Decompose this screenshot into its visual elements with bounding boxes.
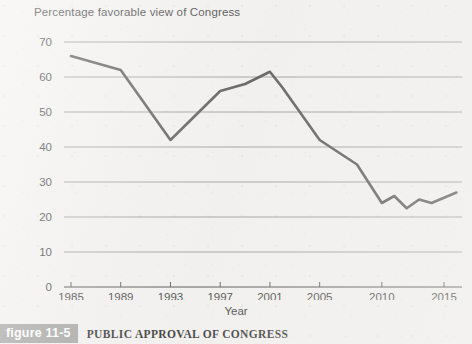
data-line-congress-approval bbox=[71, 56, 456, 208]
y-tick-label: 30 bbox=[39, 176, 52, 188]
figure-caption-bar: figure 11-5 PUBLIC APPROVAL OF CONGRESS bbox=[0, 323, 472, 344]
y-tick-label: 50 bbox=[39, 106, 52, 118]
figure-container: Percentage favorable view of Congress 01… bbox=[0, 0, 472, 344]
x-axis-tick-labels: 19851989199319972001200520102015 bbox=[58, 291, 457, 300]
line-chart-plot: 010203040506070 198519891993199720012005… bbox=[0, 0, 472, 300]
y-tick-label: 10 bbox=[39, 246, 52, 258]
x-tick-label: 2010 bbox=[369, 291, 395, 300]
y-tick-label: 0 bbox=[46, 281, 52, 293]
y-tick-label: 70 bbox=[39, 36, 52, 48]
y-tick-label: 20 bbox=[39, 211, 52, 223]
x-tick-label: 1993 bbox=[158, 291, 184, 300]
x-axis-title: Year bbox=[0, 305, 472, 317]
x-tick-label: 2015 bbox=[431, 291, 457, 300]
x-axis-line bbox=[64, 282, 462, 287]
figure-number-badge: figure 11-5 bbox=[0, 324, 78, 343]
x-tick-label: 1997 bbox=[207, 291, 233, 300]
y-tick-label: 40 bbox=[39, 141, 52, 153]
data-series-group bbox=[71, 56, 456, 208]
y-tick-label: 60 bbox=[39, 71, 52, 83]
x-tick-label: 2001 bbox=[257, 291, 283, 300]
x-tick-label: 1985 bbox=[58, 291, 84, 300]
figure-caption-text: PUBLIC APPROVAL OF CONGRESS bbox=[87, 328, 288, 340]
x-tick-label: 1989 bbox=[108, 291, 134, 300]
y-axis-tick-labels: 010203040506070 bbox=[39, 36, 52, 293]
x-tick-label: 2005 bbox=[307, 291, 333, 300]
